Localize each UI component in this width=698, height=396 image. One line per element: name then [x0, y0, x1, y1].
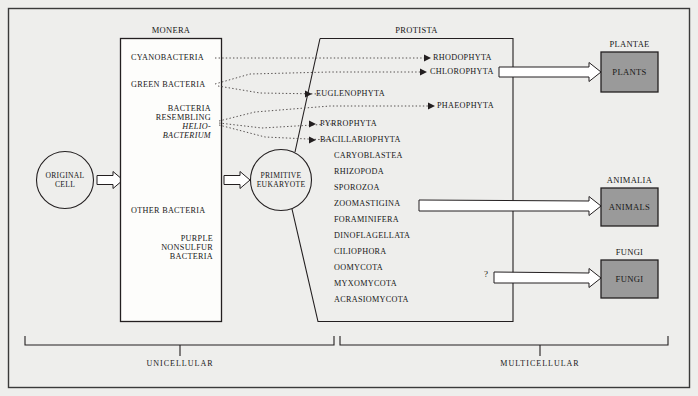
- monera-item-purple: PURPLE: [121, 234, 213, 243]
- protista-box: [292, 39, 513, 322]
- original-cell-label: ORIGINAL CELL: [37, 171, 93, 189]
- protista-item-phaeophyta: PHAEOPHYTA: [437, 101, 494, 110]
- protista-item-myxomycota: MYXOMYCOTA: [334, 279, 397, 288]
- monera-item-helio: HELIO-: [121, 122, 211, 131]
- protista-item-bacillariophyta: BACILLARIOPHYTA: [320, 135, 401, 144]
- monera-item-purple-bacteria: BACTERIA: [121, 252, 213, 261]
- bracket-label-unicellular: UNICELLULAR: [120, 359, 240, 368]
- original-cell-line1: ORIGINAL: [37, 171, 93, 180]
- protista-item-caryoblastea: CARYOBLASTEA: [334, 151, 403, 160]
- protista-item-zoomastigina: ZOOMASTIGINA: [334, 199, 400, 208]
- arrow-chlorophyta-to-plants: [499, 63, 601, 82]
- protista-item-bullets: [305, 55, 435, 144]
- protista-item-rhodophyta: RHODOPHYTA: [433, 53, 492, 62]
- outer-frame: [9, 9, 690, 388]
- animalia-title: ANIMALIA: [601, 175, 658, 185]
- uncertain-marker: ?: [484, 269, 488, 279]
- protista-item-acrasiomycota: ACRASIOMYCOTA: [334, 295, 409, 304]
- arrow-unknown-to-fungi: [494, 269, 601, 288]
- protista-item-oomycota: OOMYCOTA: [334, 263, 383, 272]
- monera-item-nonsulfur: NONSULFUR: [121, 243, 213, 252]
- protista-item-dinoflagellata: DINOFLAGELLATA: [334, 231, 410, 240]
- monera-item-bacteria: BACTERIA: [121, 104, 211, 113]
- protista-title: PROTISTA: [320, 25, 513, 35]
- arrow-monera-to-eukaryote: [224, 172, 250, 189]
- diagram-canvas: .ln{stroke:#231f20;fill:none;} .thin{str…: [0, 0, 698, 396]
- protista-item-rhizopoda: RHIZOPODA: [334, 167, 384, 176]
- diagram-vector-layer: .ln{stroke:#231f20;fill:none;} .thin{str…: [0, 0, 698, 396]
- original-cell-line2: CELL: [37, 180, 93, 189]
- protista-item-chlorophyta: CHLOROPHYTA: [430, 67, 494, 76]
- protista-item-euglenophyta: EUGLENOPHYTA: [316, 89, 385, 98]
- monera-item-other-bacteria: OTHER BACTERIA: [131, 206, 205, 215]
- arrow-zoomastigina-to-animals: [419, 197, 601, 216]
- bracket-multicellular: [340, 336, 668, 356]
- fungi-box-label: FUNGI: [601, 274, 658, 284]
- primitive-eukaryote-line2: EUKARYOTE: [248, 180, 314, 189]
- monera-item-resembling: RESEMBLING: [121, 113, 211, 122]
- plants-box-label: PLANTS: [601, 67, 658, 77]
- plantae-title: PLANTAE: [601, 39, 658, 49]
- primitive-eukaryote-label: PRIMITIVE EUKARYOTE: [248, 171, 314, 189]
- monera-item-bacterium: BACTERIUM: [121, 131, 211, 140]
- protista-item-ciliophora: CILIOPHORA: [334, 247, 387, 256]
- monera-title: MONERA: [121, 25, 221, 35]
- bracket-label-multicellular: MULTICELLULAR: [478, 359, 602, 368]
- primitive-eukaryote-line1: PRIMITIVE: [248, 171, 314, 180]
- monera-item-green-bacteria: GREEN BACTERIA: [131, 80, 205, 89]
- bracket-unicellular: [25, 336, 334, 356]
- arrow-origin-to-monera: [97, 172, 123, 189]
- protista-item-foraminifera: FORAMINIFERA: [334, 215, 399, 224]
- animals-box-label: ANIMALS: [601, 202, 658, 212]
- fungi-title: FUNGI: [601, 247, 658, 257]
- monera-item-cyanobacteria: CYANOBACTERIA: [131, 53, 204, 62]
- protista-item-pyrrophyta: PYRROPHYTA: [320, 119, 377, 128]
- protista-item-sporozoa: SPOROZOA: [334, 183, 380, 192]
